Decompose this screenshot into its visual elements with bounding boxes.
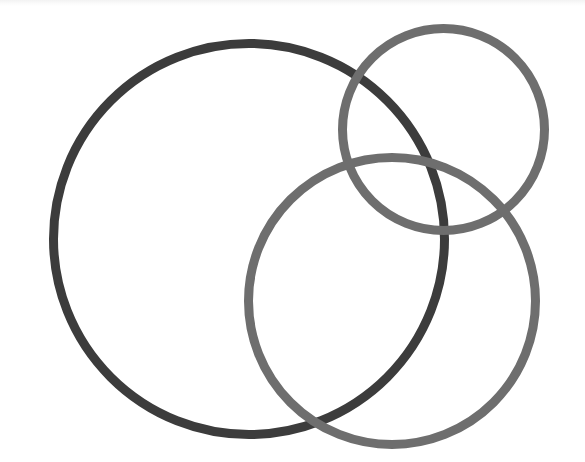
circle-medium-bottom-right: [249, 158, 536, 445]
circle-large-left: [54, 44, 445, 435]
venn-diagram: [0, 0, 585, 462]
